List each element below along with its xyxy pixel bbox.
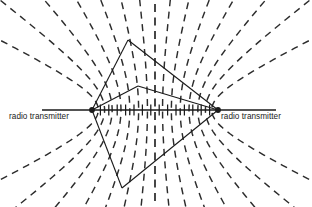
- figure-canvas: radio transmitter radio transmitter: [0, 0, 312, 207]
- left-transmitter-label: radio transmitter: [9, 112, 69, 121]
- right-transmitter-label: radio transmitter: [221, 112, 281, 121]
- hyperbola-family: [0, 0, 312, 207]
- hyperbolic-navigation-diagram: [0, 0, 312, 207]
